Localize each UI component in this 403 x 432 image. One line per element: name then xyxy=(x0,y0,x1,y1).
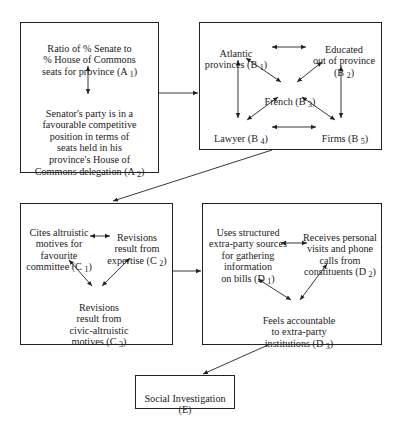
node-d1-close: ) xyxy=(271,273,274,284)
node-b2-text: Educated out of province (B xyxy=(313,44,375,78)
node-a1-text: Ratio of % Senate to % House of Commons … xyxy=(42,43,136,77)
node-b2: Educated out of province (B 2) xyxy=(308,32,380,81)
node-b5: Firms (B 5) xyxy=(314,121,376,147)
node-c3-close: ) xyxy=(123,336,126,347)
node-b5-text: Firms (B xyxy=(322,133,361,144)
node-d2-close: ) xyxy=(373,266,376,277)
node-b4-close: ) xyxy=(265,133,268,144)
node-c1-text: Cites altruistic motives for favourite c… xyxy=(26,227,88,273)
node-d1: Uses structured extra-party sources for … xyxy=(206,215,290,288)
node-a2: Senator's party is in a favourable compe… xyxy=(20,96,159,180)
node-b2-close: ) xyxy=(351,67,354,78)
node-b5-close: ) xyxy=(365,133,368,144)
node-c1: Cites altruistic motives for favourite c… xyxy=(24,215,94,276)
node-b4-text: Lawyer (B xyxy=(214,133,260,144)
node-d2-text: Receives personal visits and phone calls… xyxy=(303,232,377,278)
node-d1-text: Uses structured extra-party sources for … xyxy=(209,227,287,284)
node-d3-text: Feels accountable to extra-party institu… xyxy=(263,315,336,349)
node-a1-close: ) xyxy=(134,66,137,77)
node-a2-text: Senator's party is in a favourable compe… xyxy=(35,108,137,177)
node-b3-text: French (B xyxy=(265,96,309,107)
node-b3: French (B 3) xyxy=(254,84,326,110)
node-c3: Revisions result from civic-altruistic m… xyxy=(60,290,138,351)
node-e: Social Investigation (E) xyxy=(135,381,235,416)
node-a1: Ratio of % Senate to % House of Commons … xyxy=(20,31,159,80)
node-b3-close: ) xyxy=(312,96,315,107)
node-c1-close: ) xyxy=(88,261,91,272)
node-d3: Feels accountable to extra-party institu… xyxy=(254,303,344,352)
node-b4: Lawyer (B 4) xyxy=(208,121,274,147)
node-b1-text: Atlantic provinces (B xyxy=(205,48,260,71)
node-a2-close: ) xyxy=(141,166,144,177)
node-c2: Revisions result from expertise (C 2) xyxy=(104,220,170,269)
node-b1: Atlantic provinces (B 1) xyxy=(200,36,272,74)
node-c2-text: Revisions result from expertise (C xyxy=(107,232,159,266)
node-c2-close: ) xyxy=(163,255,166,266)
node-d3-close: ) xyxy=(330,338,333,349)
node-b1-close: ) xyxy=(264,59,267,70)
node-d2: Receives personal visits and phone calls… xyxy=(300,220,380,281)
node-e-text: Social Investigation (E) xyxy=(144,393,225,416)
